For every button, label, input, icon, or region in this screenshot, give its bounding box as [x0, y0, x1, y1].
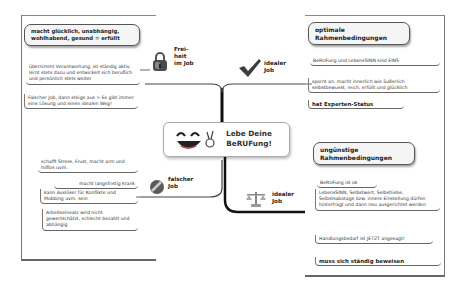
- freiheit-item-2[interactable]: Falscher Job, dann steige aus > Es gibt …: [24, 94, 138, 109]
- falscher-job-item-3[interactable]: kann Auslöser für Konflikte und Mobbing …: [40, 189, 138, 204]
- optimal-item-2[interactable]: spornt an, macht innerlich wie äußerlich…: [308, 78, 440, 93]
- optimal-item-3[interactable]: hat Experten-Status: [308, 100, 404, 109]
- freiheit-branch-label[interactable]: Frei- heit im Job: [174, 46, 194, 68]
- freiheit-item-1[interactable]: übernimmt Verantwortung, ist ständig akt…: [26, 63, 140, 85]
- idealer-job-optimal-branch-label[interactable]: idealer Job: [264, 60, 286, 74]
- unguenstig-item-4[interactable]: muss sich ständig beweisen: [315, 257, 441, 266]
- falscher-job-branch-label[interactable]: falscher Job: [168, 176, 193, 190]
- freiheit-header[interactable]: macht glücklich, unabhängig, wohlhabend,…: [24, 24, 140, 46]
- optimal-item-1[interactable]: BeRUFung und LebensSINN sind EINS: [310, 57, 440, 66]
- unguenstig-item-3[interactable]: Handlungsbedarf ist JETZT angesagt!: [315, 235, 433, 244]
- scales-icon: [244, 190, 268, 208]
- central-topic-title: Lebe Deine BeRUFung!: [226, 129, 272, 149]
- falscher-job-item-4[interactable]: Arbeitseinsatz wird nicht gewertschätzt,…: [42, 209, 138, 231]
- central-topic[interactable]: Lebe Deine BeRUFung!: [163, 122, 290, 157]
- idealer-job-unguenstig-branch-label[interactable]: idealer Job: [272, 191, 294, 205]
- unguenstig-item-1[interactable]: BeRUFung ist ok: [317, 179, 377, 188]
- falscher-job-item-2[interactable]: macht langsfristig krank: [54, 180, 138, 189]
- no-entry-icon: [149, 179, 165, 195]
- unguenstig-item-2[interactable]: LebensSINN, Selbstwert, Selbstliebe, Sel…: [315, 189, 440, 211]
- unguenstige-rahmenbedingungen-header[interactable]: ungünstige Rahmenbedingungen: [313, 142, 415, 165]
- optimale-rahmenbedingungen-header[interactable]: optimale Rahmenbedingungen: [308, 22, 410, 45]
- checkmark-icon: [238, 58, 262, 78]
- padlock-icon: [152, 52, 168, 72]
- falscher-job-item-1[interactable]: schafft Stress, Frust, macht arm und hil…: [38, 158, 138, 173]
- laughing-smiley-icon: [174, 128, 222, 154]
